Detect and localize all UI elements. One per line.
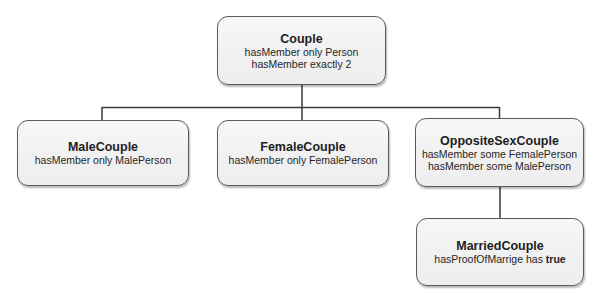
restriction-value: true [546,253,566,265]
node-male-couple: MaleCouple hasMember only MalePerson [17,120,189,186]
node-restriction: hasMember exactly 2 [252,58,352,70]
node-female-couple: FemaleCouple hasMember only FemalePerson [217,120,389,186]
node-restriction: hasProofOfMarrige has true [434,253,565,265]
node-married-couple: MarriedCouple hasProofOfMarrige has true [416,218,584,286]
node-title: OppositeSexCouple [440,134,559,148]
restriction-prefix: hasProofOfMarrige has [434,253,545,265]
node-couple: Couple hasMember only Person hasMember e… [217,16,386,85]
node-title: MaleCouple [68,140,138,154]
node-restriction: hasMember only FemalePerson [229,154,378,166]
node-restriction: hasMember some FemalePerson [422,148,577,160]
node-title: MarriedCouple [456,239,544,253]
node-restriction: hasMember only Person [245,46,359,58]
node-title: FemaleCouple [260,140,345,154]
node-restriction: hasMember some MalePerson [428,160,571,172]
node-restriction: hasMember only MalePerson [35,154,172,166]
class-hierarchy-diagram: Couple hasMember only Person hasMember e… [0,0,595,298]
node-title: Couple [280,32,322,46]
node-opposite-sex-couple: OppositeSexCouple hasMember some FemaleP… [415,118,584,187]
